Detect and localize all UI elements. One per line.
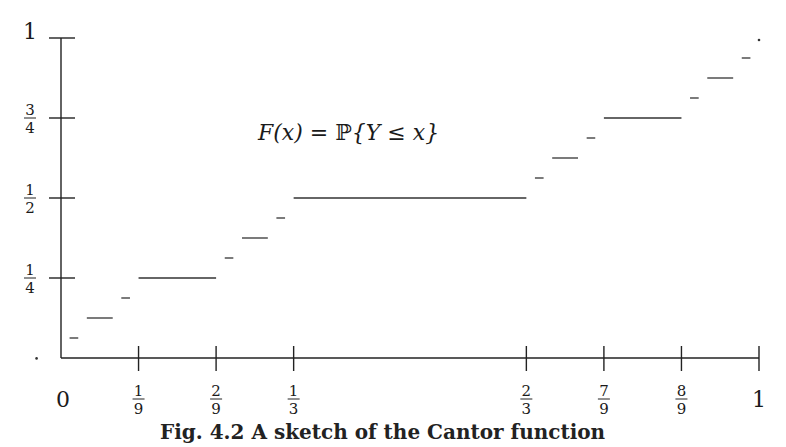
tick-numerator: 2 (211, 382, 221, 400)
endpoint-dot (35, 357, 38, 360)
tick-numerator: 1 (25, 261, 35, 279)
x-tick-label: 19 (133, 382, 145, 418)
y-tick-label: 34 (24, 101, 36, 137)
tick-numerator: 2 (522, 382, 532, 400)
tick-numerator: 7 (599, 382, 609, 400)
x-tick-label: 13 (288, 382, 300, 418)
tick-denominator: 9 (211, 400, 221, 418)
x-tick-label: 23 (520, 382, 532, 418)
y-tick-label: 1 (23, 19, 37, 44)
tick-numerator: 1 (289, 382, 299, 400)
tick-denominator: 4 (25, 279, 35, 297)
tick-number: 1 (23, 19, 37, 44)
distribution-formula: F(x) = ℙ{Y ≤ x} (258, 120, 439, 145)
endpoint-dots (35, 39, 760, 360)
tick-denominator: 4 (25, 119, 35, 137)
tick-denominator: 3 (522, 400, 532, 418)
x-tick-label: 79 (598, 382, 610, 418)
y-ticks: 1412341 (23, 19, 75, 297)
endpoint-dot (758, 39, 761, 42)
figure-caption: Fig. 4.2 A sketch of the Cantor function (160, 420, 640, 447)
formula-lhs: F(x) = (258, 120, 335, 145)
tick-denominator: 9 (599, 400, 609, 418)
tick-numerator: 8 (677, 382, 687, 400)
y-tick-label: 12 (24, 181, 36, 217)
tick-number: 0 (56, 387, 70, 412)
x-tick-label: 0 (56, 387, 70, 412)
tick-denominator: 9 (134, 400, 144, 418)
tick-denominator: 2 (25, 199, 35, 217)
tick-number: 1 (752, 387, 766, 412)
tick-numerator: 1 (134, 382, 144, 400)
formula-rhs: {Y ≤ x} (352, 120, 439, 145)
tick-denominator: 3 (289, 400, 299, 418)
x-tick-label: 29 (210, 382, 222, 418)
formula-prob-symbol: ℙ (335, 120, 352, 145)
tick-denominator: 9 (677, 400, 687, 418)
tick-numerator: 1 (25, 181, 35, 199)
y-tick-label: 14 (24, 261, 36, 297)
x-ticks: 01929132379891 (56, 346, 766, 418)
tick-numerator: 3 (25, 101, 35, 119)
step-segments (70, 58, 751, 338)
x-tick-label: 89 (675, 382, 687, 418)
x-tick-label: 1 (752, 387, 766, 412)
